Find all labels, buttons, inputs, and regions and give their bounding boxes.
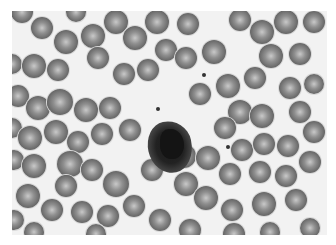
red-blood-cell: [260, 222, 280, 235]
red-blood-cell: [123, 26, 147, 50]
red-blood-cell: [145, 11, 169, 34]
platelet-speck: [156, 107, 160, 111]
red-blood-cell: [74, 98, 98, 122]
red-blood-cell: [81, 159, 103, 181]
red-blood-cell: [289, 43, 311, 65]
blood-smear-micrograph: [12, 11, 327, 235]
red-blood-cell: [22, 154, 46, 178]
red-blood-cell: [274, 11, 298, 34]
platelet-speck: [202, 73, 206, 77]
red-blood-cell: [66, 11, 86, 22]
red-blood-cell: [303, 121, 325, 143]
red-blood-cell: [47, 89, 73, 115]
red-blood-cell: [300, 218, 320, 235]
red-blood-cell: [99, 97, 121, 119]
red-blood-cell: [244, 67, 266, 89]
red-blood-cell: [119, 119, 141, 141]
red-blood-cell: [279, 77, 301, 99]
red-blood-cell: [123, 195, 145, 217]
red-blood-cell: [22, 54, 46, 78]
red-blood-cell: [149, 209, 171, 231]
red-blood-cell: [24, 222, 44, 235]
red-blood-cell: [41, 199, 63, 221]
red-blood-cell: [289, 101, 311, 123]
red-blood-cell: [177, 13, 199, 35]
red-blood-cell: [18, 126, 42, 150]
red-blood-cell: [196, 146, 220, 170]
red-blood-cell: [216, 74, 240, 98]
red-blood-cell: [214, 117, 236, 139]
red-blood-cell: [57, 151, 83, 177]
red-blood-cell: [87, 47, 109, 69]
red-blood-cell: [179, 219, 201, 235]
red-blood-cell: [113, 63, 135, 85]
red-blood-cell: [155, 39, 177, 61]
red-blood-cell: [91, 123, 113, 145]
red-blood-cell: [67, 131, 89, 153]
red-blood-cell: [275, 165, 297, 187]
white-blood-cell-nucleus: [160, 129, 184, 159]
red-blood-cell: [285, 189, 307, 211]
red-blood-cell: [221, 199, 243, 221]
red-blood-cell: [54, 30, 78, 54]
red-blood-cell: [97, 205, 119, 227]
red-blood-cell: [12, 210, 24, 230]
red-blood-cell: [44, 120, 68, 144]
platelet-speck: [226, 145, 230, 149]
red-blood-cell: [299, 151, 321, 173]
red-blood-cell: [189, 83, 211, 105]
red-blood-cell: [229, 11, 251, 31]
red-blood-cell: [259, 44, 283, 68]
red-blood-cell: [277, 135, 299, 157]
red-blood-cell: [12, 11, 33, 23]
red-blood-cell: [250, 104, 274, 128]
red-blood-cell: [304, 74, 324, 94]
red-blood-cell: [249, 161, 271, 183]
red-blood-cell: [137, 59, 159, 81]
red-blood-cell: [202, 40, 226, 64]
red-blood-cell: [103, 171, 129, 197]
red-blood-cell: [223, 223, 245, 235]
red-blood-cell: [31, 17, 53, 39]
red-blood-cell: [71, 201, 93, 223]
red-blood-cell: [12, 54, 22, 74]
red-blood-cell: [253, 133, 275, 155]
red-blood-cell: [231, 139, 253, 161]
red-blood-cell: [250, 20, 274, 44]
red-blood-cell: [194, 186, 218, 210]
red-blood-cell: [55, 175, 77, 197]
red-blood-cell: [81, 24, 105, 48]
red-blood-cell: [252, 192, 276, 216]
red-blood-cell: [47, 59, 69, 81]
red-blood-cell: [303, 11, 325, 33]
red-blood-cell: [219, 163, 241, 185]
red-blood-cell: [16, 184, 40, 208]
red-blood-cell: [175, 47, 197, 69]
